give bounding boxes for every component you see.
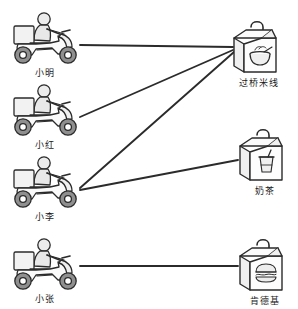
edge-xiaoming-to-guoqiaomixian[interactable] [80,45,233,47]
edge-xiaoli-to-naicha[interactable] [80,160,238,190]
rider-node-xiaoming[interactable]: 小明 [6,10,84,78]
order-node-naicha[interactable]: 奶茶 [234,124,296,196]
order-label: 肯德基 [234,294,296,307]
edge-xiaohong-to-guoqiaomixian[interactable] [80,50,233,117]
scooter-rider-icon [6,10,84,66]
rider-label: 小红 [6,138,84,151]
rider-label: 小张 [6,292,84,305]
rider-node-xiaoli[interactable]: 小李 [6,154,84,222]
rider-node-xiaohong[interactable]: 小红 [6,82,84,150]
scooter-rider-icon [6,82,84,138]
scooter-rider-icon [6,236,84,292]
takeout-bag-icon [234,234,296,294]
scooter-rider-icon [6,154,84,210]
edge-xiaoli-to-guoqiaomixian[interactable] [80,52,234,188]
order-label: 过桥米线 [228,76,290,89]
takeout-bag-icon [228,16,290,76]
order-node-guoqiaomixian[interactable]: 过桥米线 [228,16,290,88]
order-label: 奶茶 [234,184,296,197]
diagram-canvas: 小明 小红 [0,0,298,309]
rider-node-xiaozhang[interactable]: 小张 [6,236,84,304]
order-node-kendeji[interactable]: 肯德基 [234,234,296,306]
takeout-bag-icon [234,124,296,184]
rider-label: 小李 [6,210,84,223]
rider-label: 小明 [6,66,84,79]
